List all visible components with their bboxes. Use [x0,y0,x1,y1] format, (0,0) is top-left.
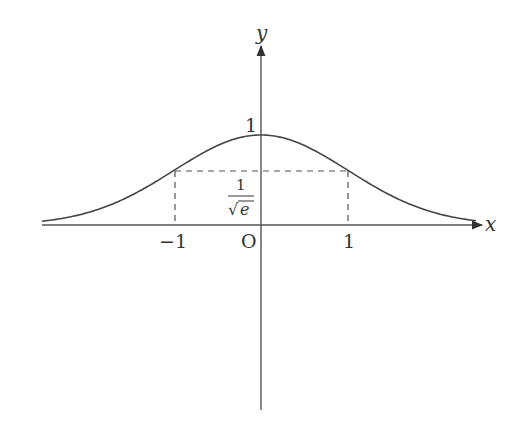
fraction-radicand: e [240,200,249,219]
y-axis-label: y [255,21,268,45]
y-tick-one: 1 [245,114,257,136]
gaussian-curve [42,135,476,221]
gaussian-figure: y x 1 O −1 1 1 √ e [0,0,529,436]
fraction-numerator: 1 [236,176,246,194]
x-tick-one: 1 [343,230,355,252]
one-over-sqrt-e-label: 1 √ e [228,176,254,219]
x-axis-label: x [485,212,496,236]
x-tick-neg-one: −1 [159,230,187,252]
origin-label: O [241,230,257,252]
fraction-radical: √ [228,200,239,219]
